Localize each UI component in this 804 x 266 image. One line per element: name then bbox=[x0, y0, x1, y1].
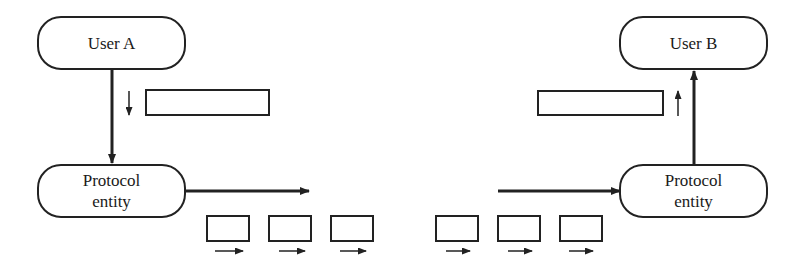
user-a-label: User A bbox=[88, 33, 136, 54]
protocol-entity-right-node: Protocol entity bbox=[619, 164, 768, 218]
protocol-entity-left-line1: Protocol bbox=[83, 170, 141, 191]
user-b-node: User B bbox=[619, 16, 768, 70]
user-a-node: User A bbox=[37, 16, 186, 70]
packet-box bbox=[435, 215, 479, 242]
packet-box bbox=[330, 215, 374, 242]
protocol-entity-right-line1: Protocol bbox=[665, 170, 723, 191]
protocol-entity-left-node: Protocol entity bbox=[37, 164, 186, 218]
protocol-entity-left-line2: entity bbox=[92, 191, 131, 212]
packet-box bbox=[559, 215, 603, 242]
user-b-message-buffer bbox=[537, 90, 664, 116]
packet-box bbox=[268, 215, 312, 242]
user-a-message-buffer bbox=[145, 89, 270, 116]
user-b-label: User B bbox=[670, 33, 718, 54]
packet-box bbox=[206, 215, 250, 242]
packet-box bbox=[497, 215, 541, 242]
protocol-entity-right-line2: entity bbox=[674, 191, 713, 212]
